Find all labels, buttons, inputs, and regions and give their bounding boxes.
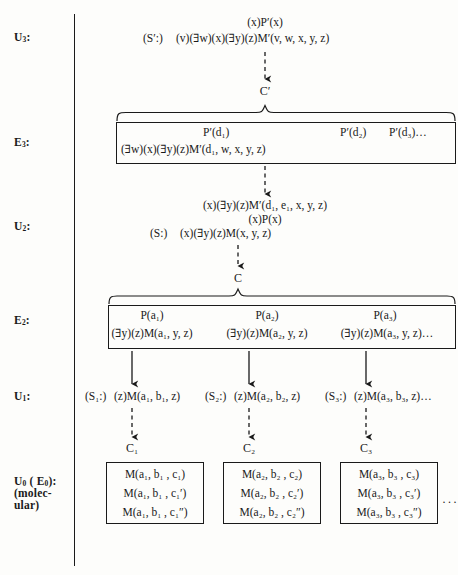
e2-cell-1-bottom: (∃y)(z)M(a₁, y, z)	[111, 327, 192, 340]
brace-c-to-e2	[109, 289, 455, 304]
u0-box2-line3: M(a₂, b₂ , c₂″)	[239, 506, 304, 519]
logic-expansion-diagram: U3: E3: U2: E2: U1: U0 ( E0): (molec- ul…	[0, 0, 458, 575]
u2-formula-line3: (x)(∃y)(z)M(x, y, z)	[180, 227, 271, 240]
u1-cell-1-prefix: (S₁:)	[85, 390, 106, 403]
u0-box2-line1: M(a₂, b₂ , c₂)	[242, 468, 302, 481]
vertical-divider-rule	[74, 14, 75, 566]
e2-cell-2-bottom: (∃y)(z)M(a₂, y, z)	[226, 327, 307, 340]
row-label-u3: U3:	[14, 32, 31, 45]
u2-formula-prefix: (S:)	[150, 227, 167, 240]
u2-formula-line2: (x)P(x)	[248, 213, 281, 226]
u0-box1-line1: M(a₁, b₁ , c₁)	[125, 468, 185, 481]
u1-cell-3-prefix: (S₃:)	[325, 390, 346, 403]
u3-formula-prefix: (S′:)	[143, 32, 163, 45]
e2-cell-3-bottom: (∃y)(z)M(a₃, y, z)…	[341, 327, 434, 340]
row-label-e3: E3:	[14, 137, 30, 150]
u1-cell-3-body: (z)M(a₃, b₃, z)…	[354, 390, 432, 403]
node-c1: C₁	[126, 441, 138, 456]
u1-cell-1-body: (z)M(a₁, b₁, z)	[114, 390, 180, 403]
e3-bottom-formula: (∃w)(x)(∃y)(z)M′(d₁, w, x, y, z)	[121, 143, 266, 156]
u3-formula-line2: (v)(∃w)(x)(∃y)(z)M′(v, w, x, y, z)	[176, 32, 329, 45]
row-label-u1: U1:	[14, 391, 31, 404]
node-c2: C₂	[243, 441, 255, 456]
row-label-u0-note-line1: (molec-	[14, 488, 52, 499]
e3-top-term-3: P′(d₃)…	[389, 126, 427, 139]
u1-cell-2-body: (z)M(a₂, b₂, z)	[234, 390, 300, 403]
e3-top-term-1: P′(d₁)	[203, 126, 229, 139]
row-label-u0-note-line2: ular)	[14, 500, 39, 511]
e2-cell-2-top: P(a₂)	[255, 309, 278, 322]
e2-cell-3-top: P(a₃)	[373, 309, 396, 322]
u0-box3-line3: M(a₃, b₃ , c₃″)	[356, 506, 421, 519]
u0-box3-line1: M(a₃, b₃ , c₃)	[359, 468, 419, 481]
u0-box1-line3: M(a₁, b₁ , c₁″)	[122, 506, 187, 519]
node-c-prime: C′	[260, 84, 271, 99]
node-c: C	[234, 271, 242, 286]
row-label-u2: U2:	[14, 221, 31, 234]
u0-box1-line2: M(a₁, b₁ , c₁′)	[124, 487, 187, 500]
brace-cprime-to-e3	[117, 106, 455, 122]
e3-top-term-2: P′(d₂)	[340, 126, 366, 139]
u0-box3-line2: M(a₃, b₃ , c₃′)	[358, 487, 421, 500]
e2-cell-1-top: P(a₁)	[140, 309, 163, 322]
u0-box2-line2: M(a₂, b₂ , c₂′)	[241, 487, 304, 500]
node-c3: C₃	[360, 441, 372, 456]
trailing-ellipsis: ···	[442, 495, 458, 510]
u3-formula-line1: (x)P′(x)	[247, 16, 283, 29]
row-label-e2: E2:	[14, 315, 30, 328]
u2-formula-line1: (x)(∃y)(z)M′(d₁, e₁, x, y, z)	[203, 199, 327, 212]
u1-cell-2-prefix: (S₂:)	[205, 390, 226, 403]
